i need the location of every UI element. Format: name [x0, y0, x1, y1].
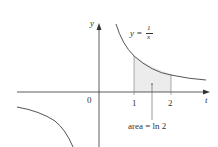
- y-axis-arrow-icon: [97, 23, 102, 30]
- tick-1: 1: [132, 99, 137, 108]
- plot-area: [0, 0, 218, 147]
- y-axis-label: y: [90, 19, 94, 28]
- tick-2: 2: [168, 99, 173, 108]
- curve-label-den: x: [147, 34, 150, 41]
- curve-label-lhs: y =: [130, 29, 142, 38]
- curve-left-branch: [17, 107, 73, 147]
- curve-label-num: 1: [147, 25, 151, 32]
- tick-0: 0: [87, 96, 92, 105]
- x-axis-arrow-icon: [203, 90, 210, 95]
- x-axis-label: t: [205, 96, 208, 105]
- area-label: area = ln 2: [128, 122, 166, 131]
